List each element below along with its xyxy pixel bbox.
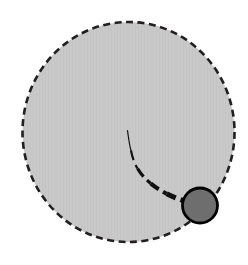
diagram-svg: [0, 0, 248, 265]
figure-canvas: [0, 0, 248, 265]
marker-circle[interactable]: [183, 188, 218, 223]
